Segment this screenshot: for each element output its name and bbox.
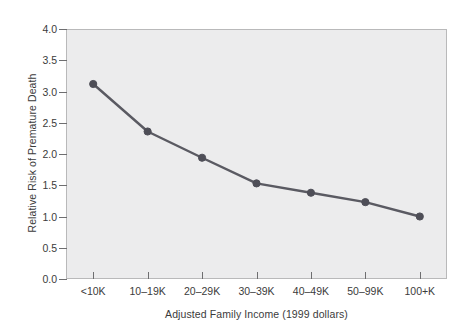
x-tick-mark <box>93 272 94 279</box>
x-tick-label: 100+K <box>385 285 455 297</box>
y-tick-mark <box>59 217 67 218</box>
y-tick-mark <box>59 154 67 155</box>
x-tick-mark <box>257 272 258 279</box>
plot-area <box>66 29 447 279</box>
y-tick-mark <box>59 248 67 249</box>
y-tick-mark <box>59 60 67 61</box>
y-tick-mark <box>59 185 67 186</box>
y-tick-mark <box>59 279 67 280</box>
x-tick-mark <box>148 272 149 279</box>
y-tick-label: 1.5 <box>17 180 57 190</box>
y-tick-label: 1.0 <box>17 212 57 222</box>
x-tick-mark <box>202 272 203 279</box>
y-tick-mark <box>59 123 67 124</box>
x-tick-mark <box>420 272 421 279</box>
y-tick-label: 2.0 <box>17 149 57 159</box>
y-tick-label: 4.0 <box>17 24 57 34</box>
y-tick-label: 0.0 <box>17 274 57 284</box>
y-tick-label: 0.5 <box>17 243 57 253</box>
x-tick-mark <box>311 272 312 279</box>
x-tick-mark <box>365 272 366 279</box>
y-tick-mark <box>59 29 67 30</box>
y-tick-label: 2.5 <box>17 118 57 128</box>
x-axis-title: Adjusted Family Income (1999 dollars) <box>66 308 447 320</box>
y-tick-label: 3.5 <box>17 55 57 65</box>
chart-figure: Relative Risk of Premature Death 0.00.51… <box>0 0 469 333</box>
y-tick-mark <box>59 92 67 93</box>
y-tick-label: 3.0 <box>17 87 57 97</box>
